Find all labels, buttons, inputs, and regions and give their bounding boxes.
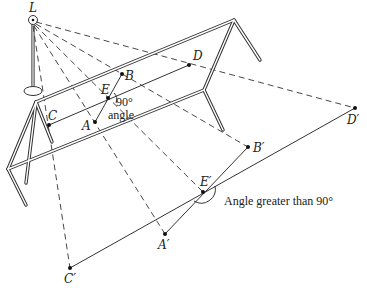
point-D-prime: [353, 106, 357, 110]
point-E-prime: [201, 190, 205, 194]
label-E-prime: E′: [199, 175, 212, 189]
point-B-prime: [246, 145, 250, 149]
right-angle-degrees: 90°: [116, 95, 133, 109]
label-E: E: [100, 83, 110, 97]
point-A-prime: [163, 232, 167, 236]
point-B: [120, 72, 124, 76]
shadow-C-prime-D-prime: [70, 108, 355, 268]
label-D-prime: D′: [346, 113, 360, 127]
label-B-prime: B′: [252, 141, 265, 155]
point-C: [47, 123, 51, 127]
obtuse-angle-caption: Angle greater than 90°: [224, 194, 333, 208]
label-A-prime: A′: [157, 238, 170, 252]
right-angle-word: angle: [108, 108, 134, 122]
wire-frame: [8, 20, 260, 205]
shadow-A-prime-B-prime: [165, 147, 248, 234]
point-D: [187, 63, 191, 67]
label-C: C: [48, 109, 57, 123]
point-A: [93, 120, 97, 124]
label-A: A: [81, 119, 91, 133]
label-B: B: [124, 69, 134, 83]
label-L: L: [28, 1, 37, 15]
label-C-prime: C′: [64, 272, 76, 286]
point-C-prime: [68, 266, 72, 270]
diagram-canvas: L B E A C D D′ B′ E′ A′ C′ 90° angle Ang…: [0, 0, 367, 293]
label-D: D: [192, 49, 203, 63]
